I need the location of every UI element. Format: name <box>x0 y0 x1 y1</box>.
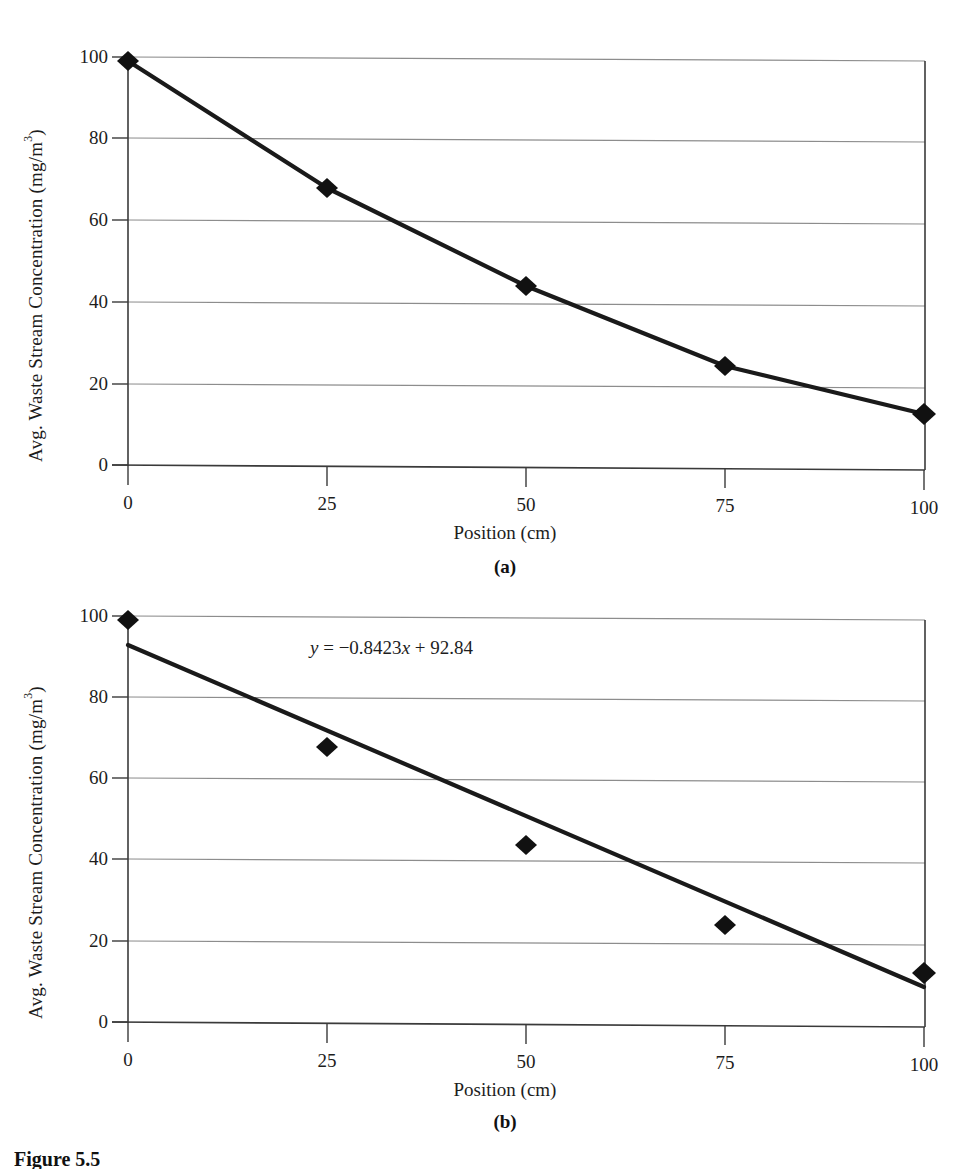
data-markers-a <box>117 51 936 425</box>
y-tick-label-60: 60 <box>58 209 108 231</box>
x-tick-label-75: 75 <box>695 495 755 517</box>
data-point-marker <box>714 356 736 376</box>
series-line-a <box>128 61 924 414</box>
data-point-marker <box>117 610 139 630</box>
y-axis-title-text: Avg. Waste Stream Concentration (mg/m <box>25 142 46 462</box>
gridline-100 <box>128 616 925 620</box>
y-tick-label-0: 0 <box>58 454 108 476</box>
plot-area-a: 100 80 60 40 20 0 0 25 50 75 100 Avg. Wa… <box>0 0 975 585</box>
y-axis-title-exponent: 3 <box>22 693 35 699</box>
x-tick-label-100: 100 <box>894 1054 954 1076</box>
y-tick-label-0: 0 <box>58 1011 108 1033</box>
y-ticks-b <box>112 616 128 1022</box>
gridline-20 <box>128 941 925 945</box>
x-tick-label-0: 0 <box>98 492 158 514</box>
data-point-marker <box>912 962 936 984</box>
y-tick-label-100: 100 <box>58 46 108 68</box>
gridline-40 <box>128 302 925 306</box>
y-tick-label-20: 20 <box>58 930 108 952</box>
x-axis-line-a <box>112 465 925 470</box>
chart-panel-b: 100 80 60 40 20 0 0 25 50 75 100 y = −0.… <box>0 585 975 1145</box>
data-markers-b <box>117 610 936 984</box>
y-axis-title-b: Avg. Waste Stream Concentration (mg/m3) <box>22 607 47 1019</box>
y-ticks-a <box>112 57 128 465</box>
x-axis-title-b: Position (cm) <box>0 1079 975 1101</box>
y-tick-label-40: 40 <box>58 291 108 313</box>
y-axis-title-text: Avg. Waste Stream Concentration (mg/m <box>25 699 46 1019</box>
plot-area-b: 100 80 60 40 20 0 0 25 50 75 100 y = −0.… <box>0 585 975 1145</box>
sub-caption-b: (b) <box>0 1111 975 1133</box>
figure-page: 100 80 60 40 20 0 0 25 50 75 100 Avg. Wa… <box>0 0 975 1169</box>
gridline-100 <box>128 57 925 61</box>
y-tick-label-60: 60 <box>58 767 108 789</box>
gridlines-b <box>128 616 925 945</box>
chart-panel-a: 100 80 60 40 20 0 0 25 50 75 100 Avg. Wa… <box>0 0 975 585</box>
trendline-b <box>128 645 924 987</box>
y-axis-title-tail: ) <box>25 129 46 136</box>
x-tick-label-0: 0 <box>98 1049 158 1071</box>
data-point-marker <box>515 835 537 855</box>
x-axis-title-a: Position (cm) <box>0 522 975 544</box>
x-tick-label-25: 25 <box>297 1050 357 1072</box>
y-axis-title-tail: ) <box>25 686 46 693</box>
figure-caption: Figure 5.5 <box>14 1148 100 1169</box>
x-tick-label-75: 75 <box>695 1052 755 1074</box>
gridline-40 <box>128 859 925 863</box>
x-tick-label-100: 100 <box>894 497 954 519</box>
x-tick-label-50: 50 <box>496 494 556 516</box>
x-tick-label-25: 25 <box>297 493 357 515</box>
data-point-marker <box>515 276 537 296</box>
y-tick-label-80: 80 <box>58 686 108 708</box>
gridline-60 <box>128 778 925 782</box>
gridlines-a <box>128 57 925 388</box>
y-tick-label-40: 40 <box>58 848 108 870</box>
gridline-60 <box>128 220 925 224</box>
sub-caption-a: (a) <box>0 556 975 578</box>
data-point-marker <box>714 915 736 935</box>
y-tick-label-100: 100 <box>58 605 108 627</box>
data-point-marker <box>316 737 338 757</box>
equation-constant: + 92.84 <box>410 637 473 658</box>
y-axis-title-exponent: 3 <box>22 136 35 142</box>
equation-variable: x <box>402 637 410 658</box>
x-axis-line-b <box>112 1022 925 1027</box>
y-tick-label-20: 20 <box>58 373 108 395</box>
equation-rhs: = −0.8423 <box>318 637 401 658</box>
y-tick-label-80: 80 <box>58 127 108 149</box>
regression-equation-annotation: y = −0.8423x + 92.84 <box>310 637 473 659</box>
y-axis-title-a: Avg. Waste Stream Concentration (mg/m3) <box>22 52 47 462</box>
x-tick-label-50: 50 <box>496 1051 556 1073</box>
data-point-marker <box>912 403 936 425</box>
